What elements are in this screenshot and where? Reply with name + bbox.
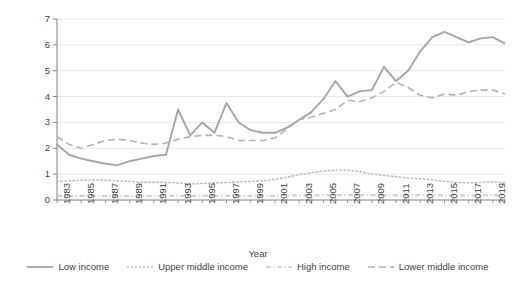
legend-swatch-dashdot	[266, 262, 292, 272]
legend-item-low-income[interactable]: Low income	[27, 261, 109, 272]
legend-label: Low income	[58, 261, 109, 272]
legend-swatch-dotted	[127, 262, 153, 272]
x-tick-label-1991: 1991	[158, 183, 168, 204]
legend-swatch-dashed	[368, 262, 394, 272]
x-tick-label-1999: 1999	[255, 183, 265, 204]
y-tick-label-0: 0	[34, 195, 50, 205]
legend-label: Upper middle income	[158, 261, 248, 272]
x-tick-label-2005: 2005	[328, 183, 338, 204]
legend-item-high-income[interactable]: High income	[266, 261, 350, 272]
y-tick-label-4: 4	[34, 92, 50, 102]
y-tick-label-7: 7	[34, 14, 50, 24]
y-tick-label-2: 2	[34, 143, 50, 153]
x-tick-label-2013: 2013	[425, 183, 435, 204]
series-line-low-income	[57, 32, 505, 165]
legend-swatch-solid	[27, 262, 53, 272]
x-tick-label-2017: 2017	[473, 183, 483, 204]
legend-item-lower-middle-income[interactable]: Lower middle income	[368, 261, 489, 272]
x-tick-label-2009: 2009	[376, 183, 386, 204]
legend-item-upper-middle-income[interactable]: Upper middle income	[127, 261, 248, 272]
y-tick-label-1: 1	[34, 169, 50, 179]
remittances-chart-figure: Remittances as share of GDP (%) 01234567…	[0, 0, 516, 288]
x-tick-label-1985: 1985	[86, 183, 96, 204]
x-tick-label-2007: 2007	[352, 183, 362, 204]
legend-label: Lower middle income	[399, 261, 489, 272]
x-tick-label-1987: 1987	[110, 183, 120, 204]
x-tick-label-2019: 2019	[497, 183, 507, 204]
x-axis-title: Year	[0, 248, 516, 259]
legend-label: High income	[297, 261, 350, 272]
x-tick-label-1983: 1983	[62, 183, 72, 204]
x-tick-label-1989: 1989	[134, 183, 144, 204]
x-tick-label-1993: 1993	[183, 183, 193, 204]
chart-legend: Low incomeUpper middle incomeHigh income…	[0, 261, 516, 272]
x-tick-label-1997: 1997	[231, 183, 241, 204]
series-line-lower-middle-income	[57, 82, 505, 148]
plot-area	[0, 0, 516, 288]
x-tick-label-1995: 1995	[207, 183, 217, 204]
x-tick-label-2015: 2015	[449, 183, 459, 204]
x-tick-label-2003: 2003	[304, 183, 314, 204]
y-tick-label-3: 3	[34, 117, 50, 127]
y-tick-label-6: 6	[34, 40, 50, 50]
y-tick-label-5: 5	[34, 66, 50, 76]
x-tick-label-2001: 2001	[279, 183, 289, 204]
x-tick-label-2011: 2011	[401, 184, 411, 204]
